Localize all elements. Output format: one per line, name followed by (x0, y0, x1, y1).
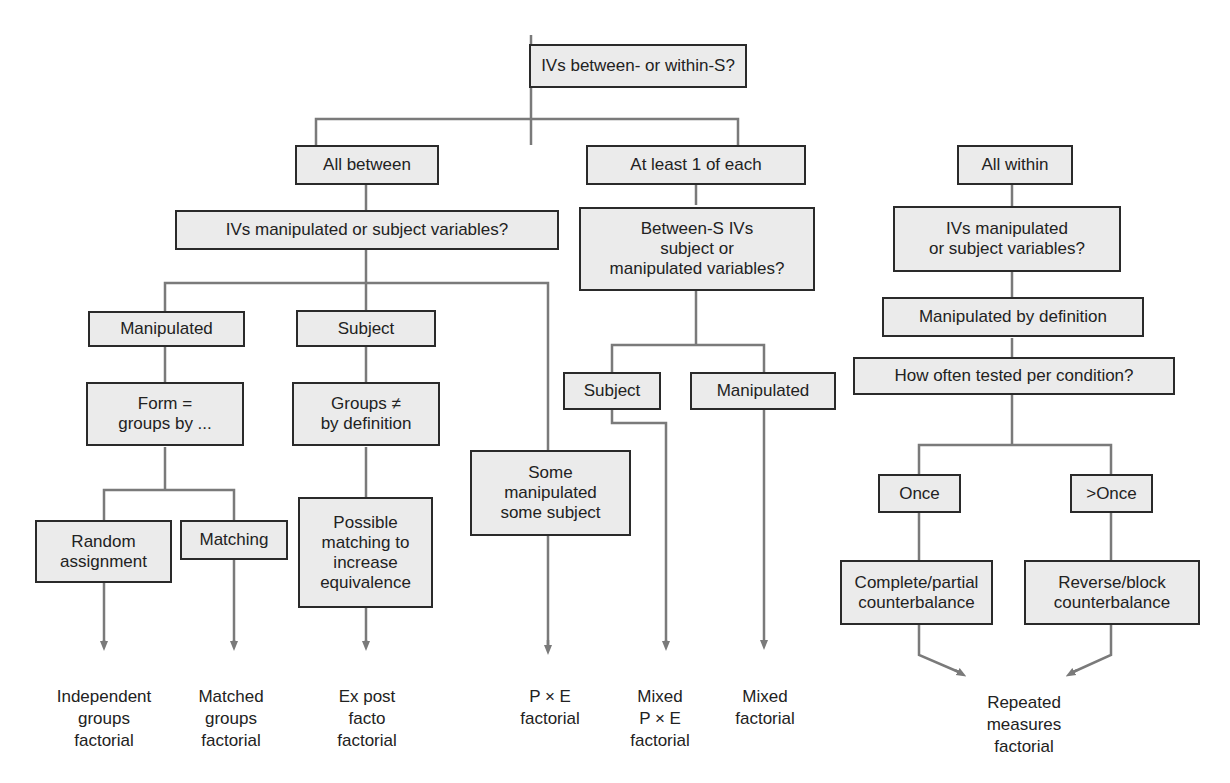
within-iv-type-question-box: IVs manipulated or subject variables? (893, 206, 1121, 272)
between-subject-box: Subject (296, 310, 436, 347)
how-often-tested-box: How often tested per condition? (853, 357, 1175, 395)
between-iv-type-question-box: IVs manipulated or subject variables? (175, 210, 559, 250)
reverse-block-counterbalance-box: Reverse/block counterbalance (1024, 560, 1200, 625)
once-box: Once (878, 474, 961, 513)
complete-partial-counterbalance-box: Complete/partial counterbalance (840, 560, 993, 625)
at-least-one-of-each-box: At least 1 of each (586, 145, 806, 185)
between-manipulated-box: Manipulated (88, 311, 245, 347)
more-than-once-box: >Once (1070, 474, 1153, 513)
root-question-box: IVs between- or within-S? (529, 44, 747, 88)
mixed-subject-box: Subject (563, 372, 661, 410)
all-between-box: All between (295, 145, 439, 185)
groups-not-equal-box: Groups ≠ by definition (292, 382, 440, 446)
outcome-mixed-factorial: Mixed factorial (735, 686, 795, 730)
outcome-repeated-measures-factorial: Repeated measures factorial (987, 692, 1062, 758)
possible-matching-box: Possible matching to increase equivalenc… (298, 497, 433, 608)
outcome-matched-groups-factorial: Matched groups factorial (198, 686, 263, 752)
manipulated-by-definition-box: Manipulated by definition (882, 297, 1144, 337)
random-assignment-box: Random assignment (35, 520, 172, 583)
outcome-independent-groups-factorial: Independent groups factorial (57, 686, 152, 752)
mixed-manipulated-box: Manipulated (690, 372, 836, 410)
matching-box: Matching (180, 520, 288, 560)
form-groups-box: Form = groups by ... (86, 382, 244, 446)
all-within-box: All within (957, 145, 1073, 185)
some-manipulated-some-subject-box: Some manipulated some subject (470, 450, 631, 536)
outcome-mixed-pxe-factorial: Mixed P × E factorial (630, 686, 690, 752)
decision-tree-diagram: IVs between- or within-S? All between At… (0, 0, 1230, 783)
outcome-ex-post-facto-factorial: Ex post facto factorial (337, 686, 397, 752)
mixed-between-iv-type-question-box: Between-S IVs subject or manipulated var… (579, 207, 815, 291)
outcome-pxe-factorial: P × E factorial (520, 686, 580, 730)
